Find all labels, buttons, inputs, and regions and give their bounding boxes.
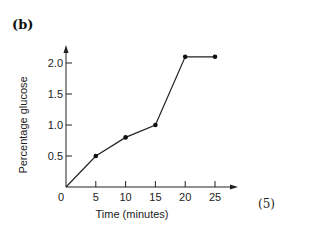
x-tick-label: 25 <box>209 191 221 203</box>
series-line <box>66 57 215 187</box>
x-axis-label: Time (minutes) <box>96 208 169 220</box>
x-tick-label: 0 <box>58 191 64 203</box>
line-chart: 05101520250.51.01.52.0 Time (minutes) Pe… <box>0 0 311 237</box>
data-point <box>213 55 218 60</box>
y-axis-arrow-icon <box>64 45 69 53</box>
data-point <box>153 123 158 128</box>
y-tick-label: 2.0 <box>48 57 63 69</box>
y-tick-label: 1.5 <box>48 88 63 100</box>
data-point <box>183 55 188 60</box>
series <box>66 55 217 188</box>
x-tick-label: 5 <box>93 191 99 203</box>
ticks: 05101520250.51.01.52.0 <box>48 57 221 203</box>
x-tick-label: 20 <box>179 191 191 203</box>
data-point <box>123 135 128 140</box>
data-point <box>94 154 99 159</box>
axes <box>64 45 239 190</box>
y-tick-label: 0.5 <box>48 150 63 162</box>
x-tick-label: 10 <box>119 191 131 203</box>
x-tick-label: 15 <box>149 191 161 203</box>
y-tick-label: 1.0 <box>48 119 63 131</box>
x-axis-arrow-icon <box>230 185 238 190</box>
y-axis-label: Percentage glucose <box>17 76 29 173</box>
